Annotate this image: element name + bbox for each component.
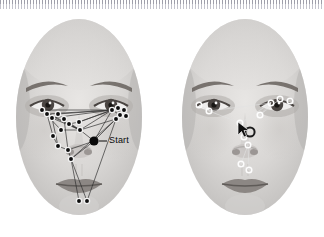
- start-label: Start: [109, 135, 129, 145]
- landmark-node: [58, 127, 63, 132]
- landmark-node: [55, 111, 60, 116]
- right-face-photo: [172, 18, 318, 218]
- figure-canvas: Start: [0, 0, 324, 237]
- landmark-node: [113, 116, 118, 121]
- landmark-node: [55, 143, 60, 148]
- landmark-node: [109, 107, 114, 112]
- landmark-node: [76, 119, 81, 124]
- landmark-node: [77, 127, 82, 132]
- landmark-node: [115, 105, 120, 110]
- landmark-node: [123, 113, 128, 118]
- ruler-major-ticks: [0, 0, 324, 4]
- landmark-node: [49, 115, 54, 120]
- landmark-node: [61, 116, 66, 121]
- landmark-node: [50, 133, 55, 138]
- landmark-node: [68, 156, 73, 161]
- landmark-node: [44, 111, 49, 116]
- landmark-node: [76, 198, 81, 203]
- start-node[interactable]: [89, 136, 98, 145]
- left-face-photo: Start: [6, 18, 152, 218]
- landmark-node: [121, 107, 126, 112]
- left-face-panel: Start: [6, 18, 152, 237]
- right-face-panel: [172, 18, 318, 237]
- tick-ruler-strip: [0, 0, 324, 9]
- landmark-node: [66, 121, 71, 126]
- landmark-node: [39, 107, 44, 112]
- landmark-node: [84, 198, 89, 203]
- landmark-node: [65, 147, 70, 152]
